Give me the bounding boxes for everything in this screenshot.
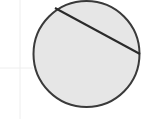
circle bbox=[34, 1, 140, 107]
guide-lines bbox=[0, 0, 33, 119]
circle-chord-diagram bbox=[0, 0, 142, 119]
